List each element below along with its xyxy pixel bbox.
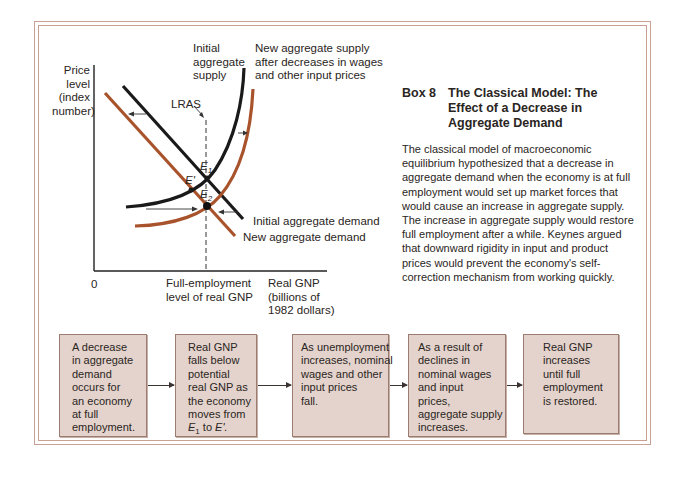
flow-step-4: As a result of declines in nominal wages… [408,334,506,437]
ad-shift-arrow [128,112,134,117]
new-demand-label: New aggregate demand [243,231,366,245]
origin-label: 0 [91,278,97,292]
full-employment-tick-label: Full-employment level of real GNP [166,277,253,304]
initial-supply-label: Initial aggregate supply [193,42,245,83]
box-body-text: The classical model of macroeconomic equ… [402,142,634,284]
flow-arrow-1 [148,385,174,386]
eprime-label: E' [185,174,195,188]
e1-label: E1 [200,160,212,178]
gnp-recovery-arrow-left [192,207,198,212]
new-aggregate-demand-line [105,93,235,236]
e2-label: E2 [200,188,212,206]
flow-step-5: Real GNP increases until full employment… [523,334,619,434]
initial-demand-label: Initial aggregate demand [253,215,380,229]
box-number: Box 8 [402,86,436,100]
y-axis-label: Price level (index number) [52,64,90,118]
flow-arrow-2 [258,385,291,386]
new-supply-label: New aggregate supply after decreases in … [255,42,383,83]
gnp-recovery-arrow-right [218,210,224,215]
lras-label: LRAS [171,98,201,112]
point-eprime [189,188,194,193]
flow-step-3: As unemployment increases, nominal wages… [292,334,389,437]
box-heading: The Classical Model: The Effect of a Dec… [448,86,628,131]
flow-arrow-4 [507,385,522,386]
flow-step-2: Real GNP falls below potential real GNP … [175,334,257,437]
x-axis-label: Real GNP (billions of 1982 dollars) [268,277,334,318]
flow-step-1: A decrease in aggregate demand occurs fo… [59,334,147,437]
flow-arrow-3 [390,385,407,386]
